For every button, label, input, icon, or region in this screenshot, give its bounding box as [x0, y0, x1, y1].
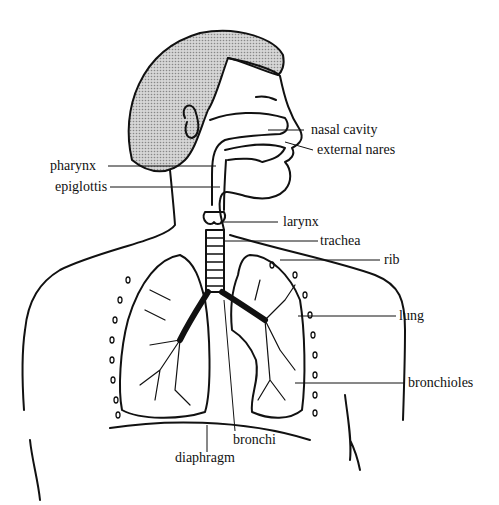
- bronchus-right: [222, 292, 265, 320]
- arm-right: [345, 395, 360, 470]
- label-nasal-cavity: nasal cavity: [311, 123, 377, 137]
- diaphragm-line: [110, 422, 310, 440]
- label-lung: lung: [399, 309, 424, 323]
- label-epiglottis: epiglottis: [55, 180, 107, 194]
- neck-back: [23, 170, 175, 410]
- label-larynx: larynx: [283, 215, 319, 229]
- pharynx-wall: [224, 160, 226, 210]
- trachea-tube: [206, 230, 224, 292]
- label-pharynx: pharynx: [50, 159, 96, 173]
- shoulder-right: [230, 235, 405, 420]
- anatomy-drawing: [0, 0, 499, 505]
- palate: [225, 145, 285, 162]
- label-rib: rib: [384, 253, 400, 267]
- respiratory-diagram: nasal cavity external nares pharynx epig…: [0, 0, 499, 505]
- label-external-nares: external nares: [317, 143, 395, 157]
- arm-left: [30, 440, 40, 500]
- eye: [256, 97, 276, 100]
- hair: [129, 31, 284, 171]
- label-trachea: trachea: [320, 234, 360, 248]
- bronchus-left: [180, 292, 208, 340]
- right-lung: [231, 255, 304, 418]
- label-bronchioles: bronchioles: [408, 376, 473, 390]
- label-diaphragm: diaphragm: [175, 451, 235, 465]
- left-lung: [120, 255, 210, 418]
- label-bronchi: bronchi: [233, 433, 276, 447]
- bronchiole-branches: [140, 280, 295, 405]
